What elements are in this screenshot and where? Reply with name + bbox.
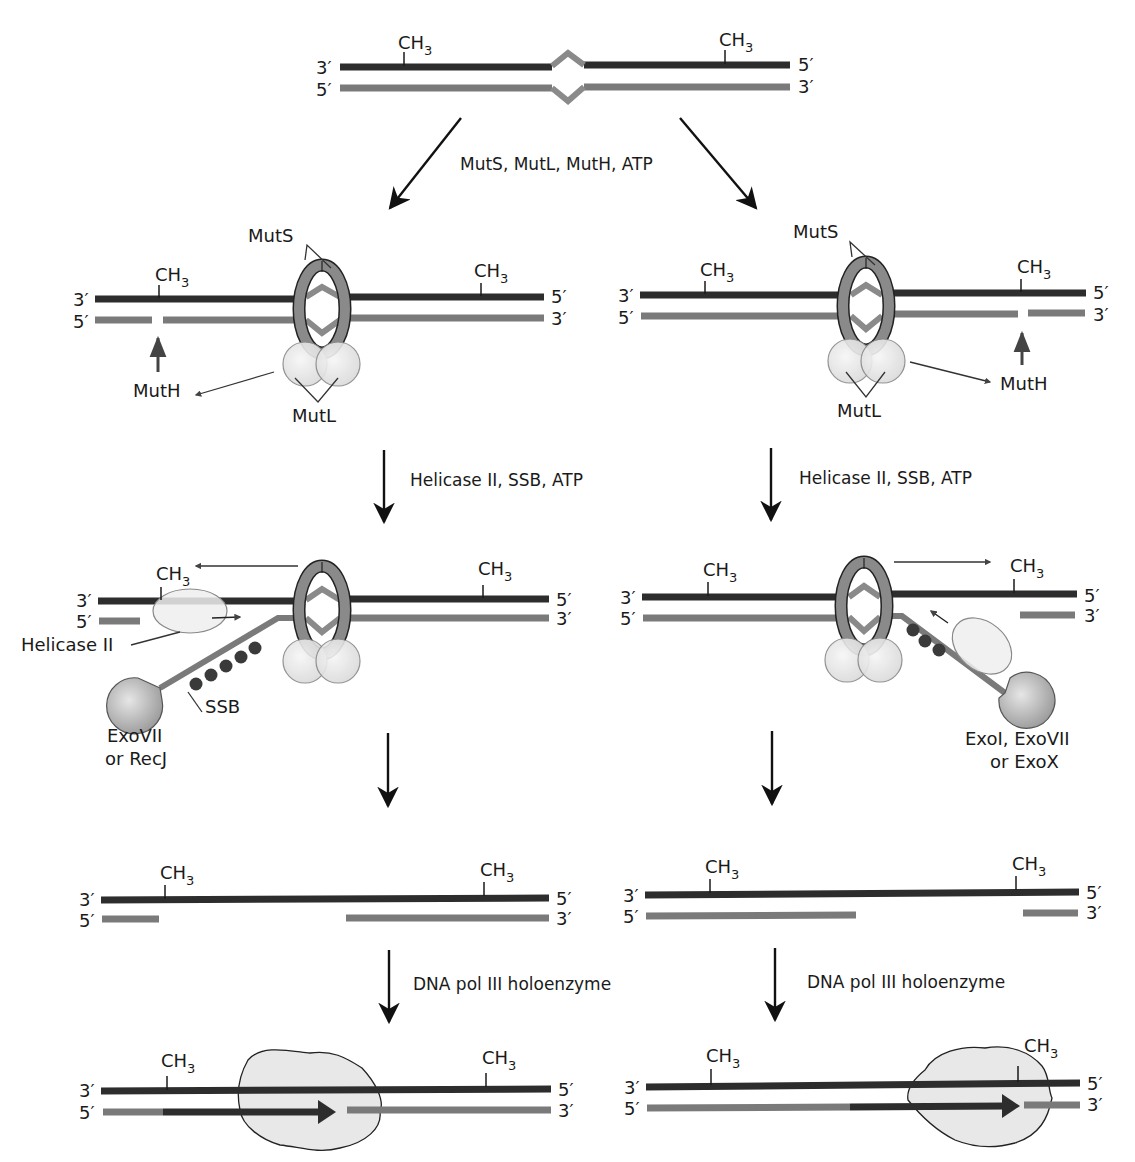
panel-recognition-left: 3′ 5′ 5′ 3′ CH3 CH3 MutS MutH MutL bbox=[73, 225, 567, 426]
end-label: 3′ bbox=[1086, 902, 1102, 923]
mutl-subunit bbox=[316, 639, 360, 683]
end-label: 3′ bbox=[558, 1100, 574, 1121]
end-label: 5′ bbox=[798, 54, 814, 75]
ssb-bead bbox=[933, 644, 946, 657]
step4-right-label: DNA pol III holoenzyme bbox=[807, 972, 1005, 992]
methyl-label: CH3 bbox=[1012, 853, 1046, 879]
methyl-label: CH3 bbox=[160, 862, 194, 888]
methyl-label: CH3 bbox=[482, 1047, 516, 1073]
end-label: 3′ bbox=[73, 289, 89, 310]
end-label: 5′ bbox=[1087, 1073, 1103, 1094]
panel-mismatch: 3′ 5′ 5′ 3′ CH3 CH3 bbox=[316, 29, 814, 101]
ssb-bead bbox=[190, 678, 203, 691]
methyl-label: CH3 bbox=[398, 32, 432, 58]
ssb-bead bbox=[907, 624, 920, 637]
end-label: 3′ bbox=[556, 608, 572, 629]
step2-left-label: Helicase II, SSB, ATP bbox=[410, 470, 583, 490]
end-label: 3′ bbox=[618, 285, 634, 306]
end-label: 5′ bbox=[1084, 585, 1100, 606]
ssb-bead bbox=[205, 669, 218, 682]
step1-label: MutS, MutL, MutH, ATP bbox=[460, 154, 653, 174]
dna-pol-iii-holoenzyme bbox=[908, 1047, 1052, 1147]
panel-resynthesis-right: 3′ 5′ 5′ 3′ CH3 CH3 bbox=[624, 1035, 1103, 1147]
mutl-subunit bbox=[861, 339, 905, 383]
end-label: 3′ bbox=[1093, 304, 1109, 325]
end-label: 5′ bbox=[1086, 882, 1102, 903]
panel-gap-right: 3′ 5′ 5′ 3′ CH3 CH3 bbox=[623, 853, 1102, 927]
end-label: 5′ bbox=[76, 611, 92, 632]
exo-left-label-1: ExoVII bbox=[107, 725, 162, 746]
ssb-bead bbox=[919, 635, 932, 648]
methyl-label: CH3 bbox=[156, 563, 190, 589]
methyl-label: CH3 bbox=[480, 859, 514, 885]
exo-right-label-1: ExoI, ExoVII bbox=[965, 728, 1070, 749]
mutl-subunit bbox=[316, 342, 360, 386]
ssb-label: SSB bbox=[205, 696, 240, 717]
end-label: 5′ bbox=[1093, 282, 1109, 303]
end-label: 3′ bbox=[1084, 605, 1100, 626]
ssb-bead bbox=[220, 660, 233, 673]
methyl-label: CH3 bbox=[155, 264, 189, 290]
step-arrow-left bbox=[390, 118, 461, 208]
methyl-label: CH3 bbox=[1017, 256, 1051, 282]
end-label: 3′ bbox=[620, 587, 636, 608]
muth-label: MutH bbox=[1000, 373, 1048, 394]
end-label: 3′ bbox=[316, 57, 332, 78]
end-label: 3′ bbox=[556, 908, 572, 929]
mutl-subunit bbox=[858, 638, 902, 682]
panel-excision-right: 3′ 5′ 5′ 3′ CH3 CH3 ExoI, ExoVII or ExoX bbox=[620, 555, 1100, 772]
end-label: 5′ bbox=[623, 906, 639, 927]
new-synthesis-strand bbox=[850, 1106, 1005, 1107]
end-label: 3′ bbox=[79, 889, 95, 910]
mismatch-bulge bbox=[552, 87, 584, 101]
ssb-bead bbox=[235, 651, 248, 664]
end-label: 5′ bbox=[79, 910, 95, 931]
end-label: 3′ bbox=[623, 885, 639, 906]
end-label: 3′ bbox=[1087, 1094, 1103, 1115]
mismatch-repair-diagram: 3′ 5′ 5′ 3′ CH3 CH3 MutS, MutL, MutH, AT… bbox=[0, 0, 1135, 1162]
end-label: 3′ bbox=[624, 1077, 640, 1098]
panel-gap-left: 3′ 5′ 5′ 3′ CH3 CH3 bbox=[79, 859, 572, 931]
methyl-label: CH3 bbox=[474, 260, 508, 286]
step2-right-label: Helicase II, SSB, ATP bbox=[799, 468, 972, 488]
end-label: 5′ bbox=[79, 1102, 95, 1123]
end-label: 3′ bbox=[551, 308, 567, 329]
muth-label: MutH bbox=[133, 380, 181, 401]
methyl-label: CH3 bbox=[478, 558, 512, 584]
exo-left-label-2: or RecJ bbox=[105, 748, 167, 769]
end-label: 5′ bbox=[558, 1079, 574, 1100]
end-label: 5′ bbox=[316, 79, 332, 100]
end-label: 5′ bbox=[73, 311, 89, 332]
panel-recognition-right: 3′ 5′ 5′ 3′ CH3 CH3 MutS MutH MutL bbox=[618, 221, 1109, 421]
mutl-label: MutL bbox=[837, 400, 881, 421]
end-label: 5′ bbox=[551, 286, 567, 307]
step-arrow-right bbox=[680, 118, 756, 208]
methyl-label: CH3 bbox=[703, 559, 737, 585]
methyl-label: CH3 bbox=[705, 856, 739, 882]
panel-excision-left: 3′ 5′ 5′ 3′ CH3 CH3 Helicase II SSB ExoV… bbox=[21, 558, 572, 769]
exo-right-label-2: or ExoX bbox=[990, 751, 1059, 772]
end-label: 5′ bbox=[624, 1098, 640, 1119]
methyl-label: CH3 bbox=[706, 1045, 740, 1071]
end-label: 5′ bbox=[618, 307, 634, 328]
end-label: 3′ bbox=[76, 590, 92, 611]
muts-label: MutS bbox=[248, 225, 293, 246]
exonuclease-exoi-exovii-exox bbox=[999, 672, 1055, 728]
mutl-label: MutL bbox=[292, 405, 336, 426]
end-label: 3′ bbox=[798, 76, 814, 97]
muts-label: MutS bbox=[793, 221, 838, 242]
mismatch-bulge bbox=[552, 53, 584, 66]
panel-resynthesis-left: 3′ 5′ 5′ 3′ CH3 CH3 bbox=[79, 1047, 574, 1150]
end-label: 5′ bbox=[620, 608, 636, 629]
end-label: 3′ bbox=[79, 1080, 95, 1101]
methyl-label: CH3 bbox=[161, 1050, 195, 1076]
step4-left-label: DNA pol III holoenzyme bbox=[413, 974, 611, 994]
methyl-label: CH3 bbox=[719, 29, 753, 55]
helicase-label: Helicase II bbox=[21, 634, 113, 655]
helicase-ii bbox=[153, 589, 227, 633]
end-label: 5′ bbox=[556, 888, 572, 909]
end-label: 5′ bbox=[556, 589, 572, 610]
ssb-bead bbox=[249, 642, 262, 655]
dna-pol-iii-holoenzyme bbox=[238, 1050, 381, 1151]
methyl-label: CH3 bbox=[1010, 555, 1044, 581]
